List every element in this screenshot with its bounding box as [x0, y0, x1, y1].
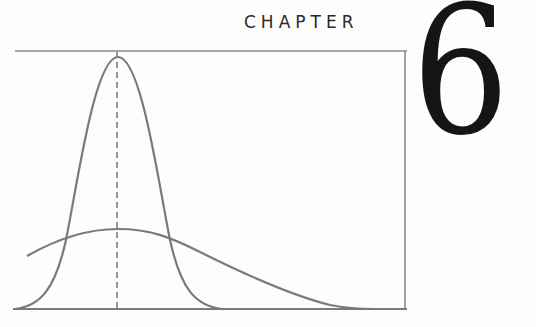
chapter-opener-page: CHAPTER 6	[0, 0, 536, 327]
distribution-figure	[0, 0, 536, 327]
broad-curve	[27, 229, 375, 309]
narrow-curve	[15, 57, 222, 309]
